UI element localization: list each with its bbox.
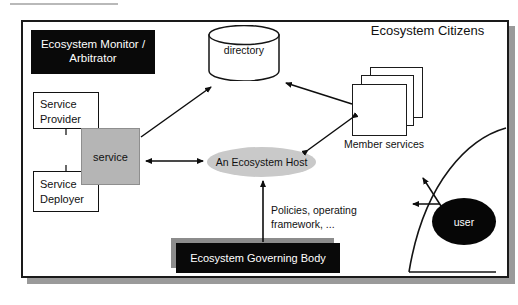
node-user-label: user [454, 216, 474, 228]
node-service-provider-label-line2: Provider [40, 112, 98, 127]
node-ecosystem-host[interactable]: An Ecosystem Host [207, 147, 316, 177]
node-service-provider-label-line1: Service [40, 97, 98, 112]
node-ecosystem-monitor-label: Ecosystem Monitor / Arbitrator [31, 38, 155, 65]
edge-label-policies-line2: framework, ... [271, 217, 386, 231]
node-service-deployer-label-line2: Deployer [40, 192, 98, 207]
diagram-canvas: Ecosystem Citizens Ecosystem Monitor / A… [0, 0, 518, 305]
node-governing-body-label: Ecosystem Governing Body [190, 252, 326, 265]
node-service[interactable]: service [81, 128, 140, 185]
node-member-service-front[interactable] [352, 84, 407, 136]
page-title: Ecosystem Citizens [360, 23, 495, 38]
node-ecosystem-monitor[interactable]: Ecosystem Monitor / Arbitrator [31, 30, 155, 74]
node-service-label: service [93, 151, 128, 163]
edge-label-policies-line1: Policies, operating [271, 203, 386, 217]
scan-artifact-line [10, 3, 118, 5]
node-member-services-label: Member services [334, 138, 434, 150]
node-directory-label: directory [208, 44, 280, 56]
node-service-provider[interactable]: Service Provider [33, 92, 99, 129]
node-governing-body[interactable]: Ecosystem Governing Body [176, 243, 340, 273]
node-user[interactable]: user [432, 198, 496, 245]
node-ecosystem-host-label: An Ecosystem Host [216, 156, 308, 168]
edge-label-policies: Policies, operating framework, ... [271, 203, 386, 231]
